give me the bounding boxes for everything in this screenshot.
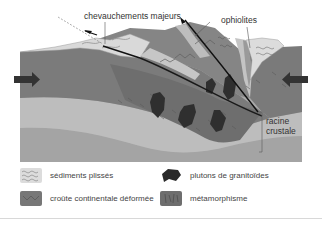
legend-item-sediments: sédiments plissés: [20, 167, 113, 183]
legend-item-deformed-crust: croûte continentale déformée: [20, 190, 154, 206]
thrust-extension-dashed: [58, 17, 103, 44]
deformed-crust-swatch-icon: [20, 191, 42, 206]
bottom-divider: [0, 218, 322, 219]
legend-label: plutons de granitoïdes: [190, 171, 269, 180]
label-thrusts: chevauchements majeurs: [84, 11, 181, 21]
legend-item-plutons: plutons de granitoïdes: [160, 167, 269, 183]
legend-item-metamorphism: métamorphisme: [160, 190, 247, 206]
label-ophiolites: ophiolites: [221, 15, 257, 25]
orogen-cross-section: chevauchements majeurs ophiolites racine…: [0, 0, 322, 162]
legend-label: métamorphisme: [190, 194, 247, 203]
legend: sédiments plissés croûte continentale dé…: [0, 162, 322, 212]
legend-label: croûte continentale déformée: [50, 194, 154, 203]
label-root-2: crustale: [266, 126, 296, 136]
pluton-swatch-icon: [160, 168, 182, 183]
sediments-swatch-icon: [20, 168, 42, 183]
label-root-1: racine: [266, 116, 289, 126]
metamorphism-swatch-icon: [160, 191, 182, 206]
legend-label: sédiments plissés: [50, 171, 113, 180]
